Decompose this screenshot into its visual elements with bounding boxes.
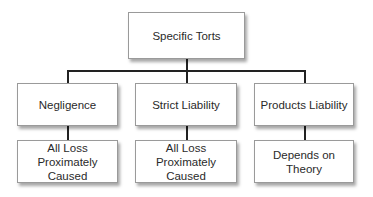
outcome-line2: Proximately Caused	[136, 155, 236, 183]
outcome-line1: Depends on Theory	[255, 148, 353, 176]
outcome-negligence: All Loss Proximately Caused	[17, 140, 118, 183]
outcome-products-liability: Depends on Theory	[254, 140, 354, 183]
node-products-liability: Products Liability	[254, 83, 354, 126]
outcome-line2: Proximately Caused	[18, 155, 117, 183]
node-negligence: Negligence	[17, 83, 118, 126]
connector-to-strict-liability	[186, 70, 188, 83]
root-node: Specific Torts	[128, 12, 245, 59]
outcome-line1: All Loss	[166, 141, 206, 155]
root-label: Specific Torts	[152, 29, 220, 43]
node-label: Products Liability	[261, 98, 348, 112]
connector-to-negligence	[67, 70, 69, 83]
connector-negligence-outcome	[67, 126, 69, 140]
connector-strict-outcome	[186, 126, 188, 140]
connector-products-outcome	[304, 126, 306, 140]
node-strict-liability: Strict Liability	[135, 83, 237, 126]
outcome-line1: All Loss	[47, 141, 87, 155]
outcome-strict-liability: All Loss Proximately Caused	[135, 140, 237, 183]
node-label: Negligence	[39, 98, 97, 112]
node-label: Strict Liability	[152, 98, 220, 112]
connector-to-products-liability	[304, 70, 306, 83]
